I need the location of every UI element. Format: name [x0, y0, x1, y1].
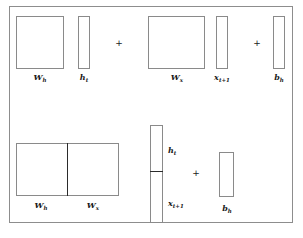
label-x-t1-bottom-sub: t+1: [173, 203, 184, 209]
label-x-t1-bottom: xt+1: [168, 199, 184, 208]
label-w-x-top-sub: x: [180, 77, 183, 83]
block-h-t-top: [78, 16, 90, 69]
block-b-h-bottom: [219, 152, 234, 197]
label-w-x-bottom: Wx: [87, 201, 99, 210]
label-h-t-top-sub: t: [86, 77, 89, 83]
label-b-h-bottom-base: b: [222, 203, 228, 213]
label-w-h-top-base: W: [34, 72, 43, 82]
block-stacked-vector-bottom: [150, 125, 163, 223]
label-b-h-bottom-sub: h: [228, 208, 232, 214]
label-w-x-bottom-sub: x: [96, 205, 99, 211]
label-b-h-bottom: bh: [222, 204, 232, 213]
block-w-concat-divider: [67, 143, 68, 196]
label-h-t-bottom: ht: [168, 146, 176, 155]
figure-container: Wh ht + Wx xt+1 + bh Wh: [0, 0, 303, 238]
label-b-h-top: bh: [274, 73, 284, 82]
block-x-t1-top: [216, 16, 228, 69]
block-stacked-vector-divider: [150, 171, 163, 172]
label-h-t-bottom-sub: t: [174, 150, 177, 156]
label-b-h-top-sub: h: [280, 77, 284, 83]
label-w-h-top-sub: h: [42, 77, 46, 83]
plus-operator-bottom-1: +: [192, 169, 200, 178]
label-b-h-top-base: b: [274, 72, 280, 82]
label-h-t-top-base: h: [80, 72, 86, 82]
label-w-x-top-base: W: [171, 72, 180, 82]
plus-operator-top-1: +: [115, 39, 123, 48]
block-w-x-top: [148, 16, 205, 69]
label-h-t-top: ht: [80, 73, 88, 82]
block-b-h-top: [273, 16, 285, 69]
label-h-t-bottom-base: h: [168, 145, 174, 155]
label-w-h-bottom: Wh: [35, 201, 48, 210]
block-w-h-top: [16, 16, 64, 69]
label-w-x-bottom-base: W: [87, 200, 96, 210]
label-x-t1-top-sub: t+1: [219, 77, 230, 83]
label-w-h-bottom-sub: h: [43, 205, 47, 211]
plus-operator-top-2: +: [253, 39, 261, 48]
label-w-x-top: Wx: [171, 73, 183, 82]
label-w-h-bottom-base: W: [35, 200, 44, 210]
figure-frame: Wh ht + Wx xt+1 + bh Wh: [9, 6, 293, 223]
label-w-h-top: Wh: [34, 73, 47, 82]
label-x-t1-top: xt+1: [214, 73, 230, 82]
